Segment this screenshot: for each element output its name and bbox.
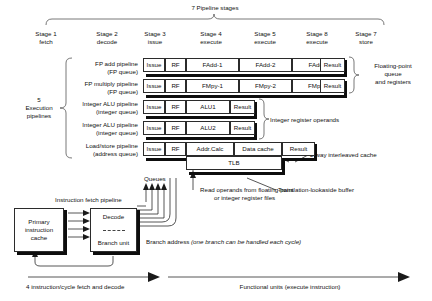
icache-line3: cache — [31, 235, 48, 241]
fp-mul-stage-rf: RF — [165, 79, 186, 93]
fp-queue-annotation-line2: queue — [356, 70, 430, 77]
ldst-stage-result: Result — [282, 142, 315, 156]
row1-shadow-bottom — [146, 74, 347, 77]
stage-6-name: execute — [292, 38, 342, 45]
fp-add-stage-fadd1: FAdd-1 — [186, 58, 239, 72]
exec-pipelines-count: 5 — [18, 96, 60, 103]
decode-branch-unit-box: Decode Branch unit — [90, 208, 137, 252]
pipeline-label-ldst-2: (address queue) — [58, 150, 138, 157]
pipeline-diagram: 7 Pipeline stages Stage 1 fetch Stage 2 … — [0, 0, 432, 301]
stage-1-num: Stage 1 — [16, 30, 76, 37]
exec-pipelines-word1: Execution — [14, 104, 64, 111]
stage-7-num: Stage 7 — [343, 30, 389, 37]
tlb-shadow-right — [282, 158, 285, 174]
alu1-stage-issue: Issue — [143, 100, 165, 114]
icache-line1: Primary — [28, 219, 49, 225]
decode-shadow-right — [137, 210, 140, 255]
read-operands-line2: or integer register files — [214, 194, 275, 201]
branch-address-annotation: Branch address (one branch can be handle… — [146, 238, 301, 245]
decode-label: Decode — [103, 214, 124, 220]
fp-add-stage-issue: Issue — [143, 58, 165, 72]
icache-shadow-bottom — [17, 252, 67, 255]
stage-3-name: issue — [132, 38, 178, 45]
alu1-stage-rf: RF — [165, 100, 186, 114]
stage-2-name: decode — [77, 38, 137, 45]
alu2-stage-alu: ALU2 — [186, 121, 230, 135]
alu2-stage-issue: Issue — [143, 121, 165, 135]
tlb-shadow-bottom — [189, 172, 285, 175]
stage-4-num: Stage 4 — [186, 30, 236, 37]
queues-label: Queues — [144, 175, 166, 182]
read-operands-line1: Read operands from floating-point — [200, 186, 294, 193]
row3-shadow-bottom — [146, 116, 257, 119]
fp-mul-stage-fmpy2: FMpy-2 — [239, 79, 292, 93]
ldst-stage-addr-calc: Addr.Calc — [186, 142, 234, 156]
icache-shadow-right — [64, 210, 67, 255]
stage-3-num: Stage 3 — [132, 30, 178, 37]
pipeline-label-fp-mul-2: (FP queue) — [58, 88, 138, 95]
fp-mul-stage-result: Result — [320, 79, 345, 93]
alu2-stage-result: Result — [230, 121, 255, 135]
fp-mul-stage-issue: Issue — [143, 79, 165, 93]
instruction-fetch-pipeline-label: Instruction fetch pipeline — [55, 196, 122, 203]
decode-shadow-bottom — [93, 252, 140, 255]
stage-6-num: Stage 8 — [292, 30, 342, 37]
exec-pipelines-word2: pipelines — [14, 112, 64, 119]
diagram-top-label: 7 Pipeline stages — [150, 4, 280, 11]
branch-address-italic: (one branch can be handled each cycle) — [191, 238, 301, 245]
ldst-stage-data-cache: Data cache — [234, 142, 282, 156]
fp-add-stage-rf: RF — [165, 58, 186, 72]
ldst-stage-rf: RF — [165, 142, 186, 156]
row2-shadow-bottom — [146, 95, 347, 98]
footer-right-label: Functional units (execute instruction) — [200, 283, 380, 290]
pipeline-label-fp-add-2: (FP queue) — [68, 68, 138, 75]
pipeline-label-alu2-2: (integer queue) — [58, 129, 138, 136]
interleaved-cache-annotation: 2-way interleaved cache — [310, 151, 377, 158]
fp-queue-annotation-line3: and registers — [356, 78, 430, 85]
stage-5-num: Stage 5 — [240, 30, 290, 37]
pipeline-label-ldst-1: Load/store pipeline — [58, 142, 138, 149]
branch-unit-label: Branch unit — [98, 240, 129, 246]
decode-divider — [103, 230, 125, 231]
fp-queue-annotation-line1: Floating-point — [356, 62, 430, 69]
icache-line2: instruction — [25, 227, 53, 233]
stage-7-name: store — [343, 38, 389, 45]
primary-instruction-cache-box: Primary instruction cache — [14, 208, 64, 252]
stage-1-name: fetch — [16, 38, 76, 45]
footer-left-label: 4 instruction/cycle fetch and decode — [26, 283, 124, 290]
alu1-stage-alu: ALU1 — [186, 100, 230, 114]
row4-shadow-bottom — [146, 137, 257, 140]
ldst-stage-issue: Issue — [143, 142, 165, 156]
stage-4-name: execute — [186, 38, 236, 45]
fp-mul-stage-fmpy1: FMpy-1 — [186, 79, 239, 93]
fp-add-stage-fadd2: FAdd-2 — [239, 58, 292, 72]
stage-5-name: execute — [240, 38, 290, 45]
branch-address-prefix: Branch address — [146, 238, 191, 245]
fp-add-stage-result: Result — [320, 58, 345, 72]
pipeline-label-alu1-1: Integer ALU pipeline — [58, 100, 138, 107]
pipeline-label-alu2-1: Integer ALU pipeline — [58, 121, 138, 128]
ldst-stage-tlb: TLB — [186, 156, 282, 170]
pipeline-label-fp-mul-1: FP multiply pipeline — [58, 80, 138, 87]
alu2-stage-rf: RF — [165, 121, 186, 135]
stage-2-num: Stage 2 — [77, 30, 137, 37]
alu1-stage-result: Result — [230, 100, 255, 114]
integer-register-operands-annotation: Integer register operands — [270, 116, 339, 123]
pipeline-label-alu1-2: (integer queue) — [58, 108, 138, 115]
pipeline-label-fp-add-1: FP add pipeline — [68, 60, 138, 67]
